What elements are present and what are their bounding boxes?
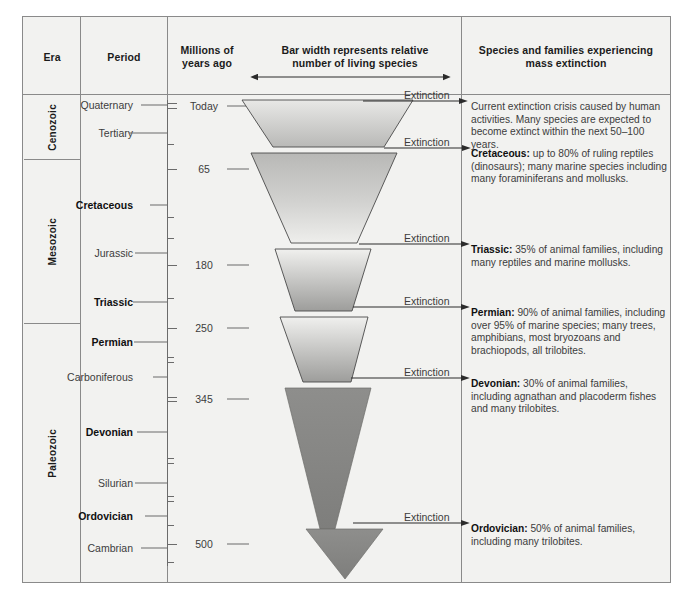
description-title-permian: Permian: [471, 307, 515, 318]
description-ordovician: Ordovician: 50% of animal families, incl… [471, 523, 671, 548]
description-current: Current extinction crisis caused by huma… [471, 101, 667, 151]
extinction-arrow-current [363, 95, 473, 109]
extinction-diagram: Era Period Millions of years ago Bar wid… [22, 16, 671, 583]
description-permian: Permian: 90% of animal families, includi… [471, 307, 675, 357]
description-title-ordovician: Ordovician: [471, 523, 528, 534]
description-title-cretaceous: Cretaceous: [471, 148, 530, 159]
extinction-arrow-devonian [351, 372, 475, 386]
extinction-arrow-ordovician [353, 517, 475, 531]
description-title-triassic: Triassic: [471, 244, 512, 255]
description-title-devonian: Devonian: [471, 378, 520, 389]
extinction-arrow-cretaceous [384, 142, 476, 156]
description-devonian: Devonian: 30% of animal families, includ… [471, 378, 667, 416]
description-triassic: Triassic: 35% of animal families, includ… [471, 244, 675, 269]
extinction-arrow-triassic [359, 238, 475, 252]
description-cretaceous: Cretaceous: up to 80% of ruling reptiles… [471, 148, 667, 186]
extinction-arrow-permian [353, 301, 475, 315]
description-body-current: Current extinction crisis caused by huma… [471, 101, 660, 150]
